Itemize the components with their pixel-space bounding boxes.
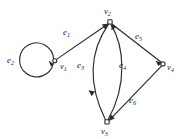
- edge-label-e1: e1: [63, 28, 70, 37]
- edge-e6-path: [109, 66, 161, 120]
- vertex-v3-dot[interactable]: [105, 120, 109, 124]
- edge-label-e3: e3: [77, 61, 84, 70]
- vertex-v1-dot[interactable]: [53, 59, 57, 63]
- edge-e2-loop: [20, 43, 54, 77]
- edge-e3: [89, 24, 109, 119]
- edge-label-e2: e2: [7, 56, 14, 65]
- edge-e4: [108, 24, 122, 120]
- edge-e4-path: [108, 24, 122, 119]
- graph-figure: v1 v2 v3 v4 e1 e2 e3 e4 e5 e6: [0, 0, 178, 139]
- vertex-label-v2: v2: [104, 7, 111, 16]
- edge-e3-arrowhead: [89, 90, 95, 96]
- edge-e2-path: [20, 43, 54, 77]
- edge-e3-path: [93, 24, 109, 119]
- edge-label-e6: e6: [129, 96, 136, 105]
- vertex-v4-dot[interactable]: [161, 62, 165, 66]
- vertex-v2-dot[interactable]: [108, 20, 112, 24]
- vertex-label-v1: v1: [60, 62, 67, 71]
- edge-e6: [109, 66, 162, 121]
- vertex-label-v3: v3: [101, 127, 108, 136]
- graph-canvas: [0, 0, 178, 139]
- vertex-label-v4: v4: [167, 63, 174, 72]
- edge-label-e5: e5: [135, 32, 142, 41]
- edge-e5-path: [112, 24, 161, 62]
- edge-label-e4: e4: [119, 61, 126, 70]
